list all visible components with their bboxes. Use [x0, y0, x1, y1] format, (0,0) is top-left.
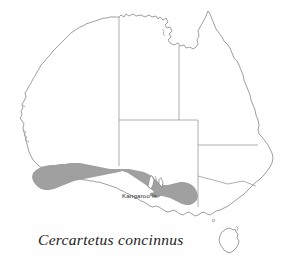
tasmania-outline [219, 228, 239, 253]
species-caption: Cercartetus concinnus [38, 231, 184, 249]
australia-map [0, 0, 295, 265]
map-label-kangaroo-island: Kangaroo Is. [122, 192, 159, 199]
tasmania-north-tip-detail [236, 226, 238, 231]
bass-strait-island-detail [212, 219, 215, 222]
distribution-map-figure: Kangaroo Is. Cercartetus concinnus [0, 0, 295, 265]
